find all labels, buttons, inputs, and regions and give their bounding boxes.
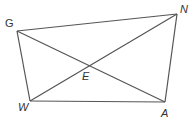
diagonal-ga bbox=[17, 31, 165, 102]
segment-na bbox=[165, 14, 177, 102]
quadrilateral-figure: G N A W E bbox=[0, 0, 196, 121]
intersection-label-e: E bbox=[82, 70, 90, 82]
segment-wg bbox=[17, 31, 30, 101]
vertex-label-g: G bbox=[5, 17, 14, 29]
segment-aw bbox=[30, 101, 165, 102]
vertex-label-a: A bbox=[160, 107, 168, 119]
vertex-label-n: N bbox=[180, 3, 188, 15]
vertex-label-w: W bbox=[18, 101, 30, 113]
geometry-diagram: G N A W E bbox=[0, 0, 196, 121]
